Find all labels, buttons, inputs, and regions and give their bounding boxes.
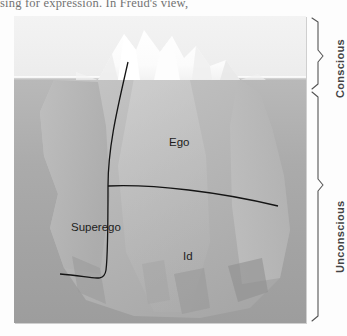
iceberg-submerged	[40, 78, 290, 318]
page-body-text: sing for expression. In Freud's view,	[0, 0, 330, 10]
iceberg-figure: Ego Superego Id	[14, 16, 306, 323]
region-label-ego: Ego	[169, 136, 189, 148]
bracket-unconscious	[312, 92, 323, 321]
bracket-label-conscious: Conscious	[334, 39, 346, 98]
region-label-id: Id	[183, 250, 193, 262]
iceberg-artwork	[14, 16, 306, 323]
bracket-annotations: Conscious Unconscious	[306, 16, 347, 323]
region-label-superego: Superego	[71, 221, 121, 233]
bracket-conscious	[312, 18, 323, 89]
iceberg-tip	[76, 30, 266, 80]
bracket-label-unconscious: Unconscious	[334, 201, 346, 273]
